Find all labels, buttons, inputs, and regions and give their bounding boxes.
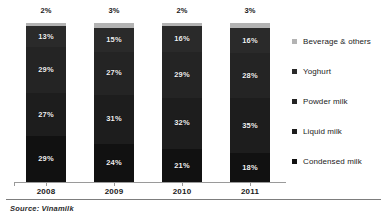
bar-column-2010[interactable]: 2%16%29%32%21% [162, 23, 202, 182]
segment-value-label: 16% [174, 35, 190, 43]
bar-segment-condensed-2010[interactable]: 21% [162, 149, 202, 182]
legend-item-yoghurt[interactable]: Yoghurt [292, 56, 386, 86]
bar-segment-liquid-2008[interactable]: 27% [26, 93, 66, 136]
bar-segment-liquid-2009[interactable]: 31% [94, 95, 134, 144]
legend-label-beverage: Beverage & others [303, 37, 371, 46]
segment-value-label: 18% [242, 164, 258, 172]
legend-item-condensed[interactable]: Condensed milk [292, 146, 386, 176]
segment-value-label: 32% [174, 119, 190, 127]
segment-value-label: 29% [38, 155, 54, 163]
footer-divider [6, 199, 381, 200]
x-axis-label-2010: 2010 [150, 187, 214, 196]
chart-legend: Beverage & othersYoghurtPowder milkLiqui… [292, 26, 386, 176]
x-axis-tick-origin [14, 182, 15, 186]
legend-label-powder: Powder milk [303, 97, 348, 106]
legend-item-powder[interactable]: Powder milk [292, 86, 386, 116]
bar-top-label-2009: 3% [82, 6, 146, 15]
legend-item-liquid[interactable]: Liquid milk [292, 116, 386, 146]
bar-column-2011[interactable]: 3%16%28%35%18% [230, 23, 270, 182]
bar-top-label-2010: 2% [150, 6, 214, 15]
legend-swatch-icon-liquid [292, 129, 297, 134]
bar-segment-powder-2008[interactable]: 29% [26, 47, 66, 93]
x-axis-tick-2008 [46, 182, 47, 186]
segment-value-label: 27% [106, 69, 122, 77]
bar-top-label-2011: 3% [218, 6, 282, 15]
bar-segment-condensed-2011[interactable]: 18% [230, 153, 270, 182]
source-note: Source: Vinamilk [10, 204, 74, 213]
bar-group-2011[interactable]: 3%3%16%28%35%18% [218, 6, 282, 182]
legend-label-yoghurt: Yoghurt [303, 67, 331, 76]
x-axis-label-2009: 2009 [82, 187, 146, 196]
legend-swatch-icon-powder [292, 99, 297, 104]
x-axis-tick-2011 [250, 182, 251, 186]
segment-value-label: 35% [242, 122, 258, 130]
segment-value-label: 24% [106, 159, 122, 167]
x-axis-label-2008: 2008 [14, 187, 78, 196]
stacked-bar-chart: 2%2%13%29%27%29%3%3%15%27%31%24%2%2%16%2… [0, 0, 388, 221]
plot-area: 2%2%13%29%27%29%3%3%15%27%31%24%2%2%16%2… [14, 6, 286, 182]
segment-value-label: 16% [242, 37, 258, 45]
bar-column-2009[interactable]: 3%15%27%31%24% [94, 23, 134, 182]
bar-segment-condensed-2008[interactable]: 29% [26, 136, 66, 182]
legend-label-condensed: Condensed milk [303, 157, 362, 166]
bar-segment-liquid-2010[interactable]: 32% [162, 98, 202, 149]
legend-label-liquid: Liquid milk [303, 127, 342, 136]
bar-group-2008[interactable]: 2%2%13%29%27%29% [14, 6, 78, 182]
bar-segment-yoghurt-2009[interactable]: 15% [94, 28, 134, 52]
bar-segment-yoghurt-2008[interactable]: 13% [26, 26, 66, 47]
bar-group-2010[interactable]: 2%2%16%29%32%21% [150, 6, 214, 182]
bar-segment-yoghurt-2010[interactable]: 16% [162, 26, 202, 51]
legend-swatch-icon-yoghurt [292, 69, 297, 74]
bar-segment-powder-2010[interactable]: 29% [162, 52, 202, 98]
segment-value-label: 31% [106, 115, 122, 123]
bar-segment-condensed-2009[interactable]: 24% [94, 144, 134, 182]
bar-group-2009[interactable]: 3%3%15%27%31%24% [82, 6, 146, 182]
x-axis-line [14, 182, 286, 183]
legend-item-beverage[interactable]: Beverage & others [292, 26, 386, 56]
segment-value-label: 27% [38, 111, 54, 119]
segment-value-label: 15% [106, 36, 122, 44]
bar-column-2008[interactable]: 2%13%29%27%29% [26, 23, 66, 182]
bar-segment-powder-2011[interactable]: 28% [230, 53, 270, 98]
legend-swatch-icon-beverage [292, 39, 297, 44]
segment-value-label: 21% [174, 162, 190, 170]
bar-segment-powder-2009[interactable]: 27% [94, 52, 134, 95]
segment-value-label: 13% [38, 33, 54, 41]
x-axis-tick-2009 [114, 182, 115, 186]
x-axis-labels: 2008200920102011 [14, 187, 286, 199]
x-axis-label-2011: 2011 [218, 187, 282, 196]
segment-value-label: 29% [174, 71, 190, 79]
x-axis-tick-2010 [182, 182, 183, 186]
legend-swatch-icon-condensed [292, 159, 297, 164]
segment-value-label: 28% [242, 72, 258, 80]
bar-segment-yoghurt-2011[interactable]: 16% [230, 28, 270, 53]
bar-segment-liquid-2011[interactable]: 35% [230, 98, 270, 154]
bar-top-label-2008: 2% [14, 6, 78, 15]
segment-value-label: 29% [38, 66, 54, 74]
